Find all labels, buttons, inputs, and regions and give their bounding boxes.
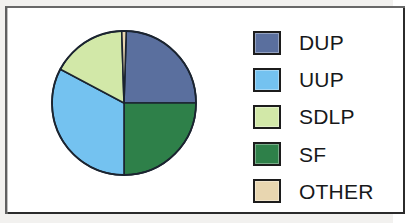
- legend-swatch-other: [253, 179, 281, 203]
- pie-chart-svg: [50, 29, 198, 177]
- legend-swatch-dup: [253, 31, 281, 55]
- legend-item-sf[interactable]: SF: [253, 136, 393, 173]
- legend-item-dup[interactable]: DUP: [253, 24, 393, 61]
- legend-item-uup[interactable]: UUP: [253, 61, 393, 98]
- legend-label-sdlp: SDLP: [299, 106, 355, 127]
- legend-label-uup: UUP: [299, 69, 344, 90]
- pie-slice-dup[interactable]: [124, 31, 196, 103]
- legend-swatch-uup: [253, 68, 281, 92]
- pie-chart: [50, 29, 198, 177]
- legend-item-other[interactable]: OTHER: [253, 173, 393, 210]
- legend-swatch-sdlp: [253, 105, 281, 129]
- chart-legend: DUP UUP SDLP SF OTHER: [253, 24, 393, 210]
- legend-swatch-sf: [253, 142, 281, 166]
- legend-label-sf: SF: [299, 144, 326, 165]
- legend-label-other: OTHER: [299, 181, 374, 202]
- legend-label-dup: DUP: [299, 32, 344, 53]
- legend-item-sdlp[interactable]: SDLP: [253, 98, 393, 135]
- pie-slice-sf[interactable]: [124, 103, 196, 175]
